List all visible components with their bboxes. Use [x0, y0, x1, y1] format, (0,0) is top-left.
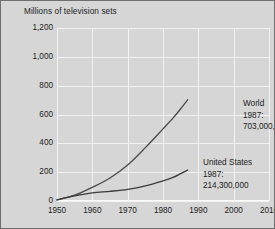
y-tick-label: 1,000 [13, 53, 53, 61]
y-tick-label: 1,200 [13, 24, 53, 32]
x-tick-label: 1950 [37, 206, 77, 215]
x-tick-label: 1960 [72, 206, 112, 215]
x-tick-label: 1970 [108, 206, 148, 215]
y-tick-label: 800 [13, 82, 53, 90]
y-axis-tick-labels: 02004006008001,0001,200 [9, 28, 53, 201]
annotation-world-line2: 1987: [243, 110, 275, 122]
x-tick-label: 1990 [178, 206, 218, 215]
y-tick-label: 0 [13, 197, 53, 205]
annotation-world: World 1987: 703,000,000 [243, 98, 275, 133]
annotation-us-line3: 214,300,000 [203, 180, 252, 192]
annotation-us-line2: 1987: [203, 169, 252, 181]
annotation-world-line1: World [243, 98, 275, 110]
annotation-united-states: United States 1987: 214,300,000 [203, 157, 252, 192]
y-tick-label: 200 [13, 168, 53, 176]
annotation-world-line3: 703,000,000 [243, 121, 275, 133]
series-line-world [57, 100, 188, 200]
plot-area: World 1987: 703,000,000 United States 19… [57, 28, 269, 201]
chart-figure: Millions of television sets 020040060080… [0, 0, 275, 229]
x-tick-label: 1980 [143, 206, 183, 215]
annotation-us-line1: United States [203, 157, 252, 169]
series-line-united-states [57, 170, 188, 200]
chart-title: Millions of television sets [24, 7, 117, 16]
x-axis-tick-labels: 1950196019701980199020002010 [57, 206, 269, 220]
x-tick-label: 2000 [214, 206, 254, 215]
y-tick-label: 400 [13, 139, 53, 147]
x-tick-label: 2010 [249, 206, 275, 215]
y-tick-label: 600 [13, 111, 53, 119]
gridline-horizontal [57, 201, 269, 202]
